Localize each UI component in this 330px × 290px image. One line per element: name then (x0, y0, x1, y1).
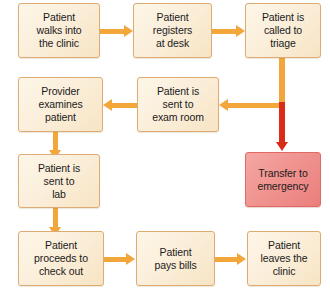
edge-check-out-to-pays-bills (104, 253, 136, 265)
edge-exam-room-to-provider (103, 99, 137, 111)
node-provider-label: Provider examines patient (38, 85, 82, 124)
node-triage-label: Patient is called to triage (262, 11, 304, 50)
flowchart-canvas: Patient walks into the clinic Patient re… (0, 0, 330, 290)
edge-triage-to-emergency (279, 102, 285, 152)
edge-triage-to-exam-room (219, 99, 285, 111)
node-transfer-to-emergency-label: Transfer to emergency (257, 167, 308, 193)
node-walks-in[interactable]: Patient walks into the clinic (18, 3, 100, 58)
node-walks-in-label: Patient walks into the clinic (36, 11, 81, 50)
node-triage[interactable]: Patient is called to triage (245, 3, 321, 58)
node-exam-room-label: Patient is sent to exam room (152, 85, 204, 124)
edge-walks-in-to-registers (100, 25, 134, 37)
node-lab-label: Patient is sent to lab (38, 162, 80, 201)
node-pays-bills[interactable]: Patient pays bills (136, 231, 215, 286)
edge-triage-trunk-vertical (279, 58, 285, 102)
node-check-out[interactable]: Patient proceeds to check out (18, 231, 104, 286)
node-check-out-label: Patient proceeds to check out (34, 239, 88, 278)
node-pays-bills-label: Patient pays bills (154, 246, 196, 272)
node-lab[interactable]: Patient is sent to lab (18, 154, 100, 208)
edge-registers-to-triage (212, 25, 246, 37)
node-registers-label: Patient registers at desk (153, 11, 192, 50)
node-leaves[interactable]: Patient leaves the clinic (247, 231, 321, 286)
node-registers[interactable]: Patient registers at desk (133, 3, 212, 58)
node-transfer-to-emergency[interactable]: Transfer to emergency (245, 152, 321, 207)
node-provider[interactable]: Provider examines patient (18, 77, 103, 132)
node-exam-room[interactable]: Patient is sent to exam room (137, 77, 219, 132)
node-leaves-label: Patient leaves the clinic (261, 239, 308, 278)
edge-pays-bills-to-leaves (215, 253, 247, 265)
